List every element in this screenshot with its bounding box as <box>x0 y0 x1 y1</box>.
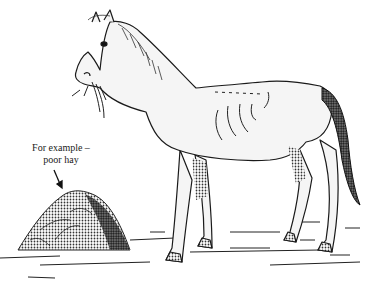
hay-strands <box>72 82 106 118</box>
caption-line-2: poor hay <box>16 154 106 166</box>
arrow-icon <box>54 170 62 188</box>
caption: For example – poor hay <box>16 142 106 166</box>
hay-pile <box>18 191 130 250</box>
caption-line-1: For example – <box>16 142 106 154</box>
illustration-canvas: For example – poor hay <box>0 0 380 288</box>
